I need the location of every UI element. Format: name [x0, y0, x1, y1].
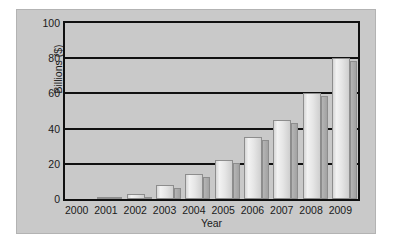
x-tick-label: 2008 [296, 204, 325, 216]
x-tick-label: 2004 [179, 204, 208, 216]
bar-face [244, 137, 262, 199]
plot-inner [65, 23, 358, 199]
bar-side-panel [115, 197, 122, 199]
bar-side-panel [145, 197, 152, 199]
bar-side-panel [262, 140, 269, 199]
bar-2000 [68, 199, 93, 200]
y-tick-label: 0 [35, 194, 60, 204]
bar-face [273, 120, 291, 199]
bar-side-panel [321, 96, 328, 199]
bar-face [215, 160, 233, 199]
bar-face [156, 185, 174, 199]
bar-face [185, 174, 203, 199]
x-tick-label: 2005 [209, 204, 238, 216]
bar-side-panel [174, 188, 181, 199]
y-axis-tick-labels: 020406080100 [35, 21, 60, 201]
y-tick-label: 100 [35, 18, 60, 28]
bar-face [97, 197, 115, 199]
x-tick-label: 2006 [238, 204, 267, 216]
bar-face [303, 93, 321, 199]
bar-2004 [185, 174, 210, 199]
bar-2005 [215, 160, 240, 199]
bar-2009 [332, 58, 357, 199]
x-tick-label: 2001 [91, 204, 120, 216]
y-tick-label: 60 [35, 88, 60, 98]
x-tick-label: 2009 [326, 204, 355, 216]
x-tick-label: 2002 [121, 204, 150, 216]
chart-page: Billions ($) 020406080100 20002001200220… [0, 0, 407, 251]
bar-side-panel [233, 163, 240, 199]
bar-side-panel [291, 123, 298, 199]
bar-face [332, 58, 350, 199]
bar-2001 [97, 197, 122, 199]
y-tick-label: 80 [35, 53, 60, 63]
bar-2006 [244, 137, 269, 199]
y-tick-label: 20 [35, 159, 60, 169]
x-tick-label: 2003 [150, 204, 179, 216]
x-tick-label: 2000 [62, 204, 91, 216]
chart-figure-panel: Billions ($) 020406080100 20002001200220… [16, 9, 376, 234]
x-axis-title: Year [63, 217, 360, 229]
bar-side-panel [203, 177, 210, 199]
bar-2003 [156, 185, 181, 199]
bar-2002 [127, 194, 152, 199]
plot-area [63, 21, 360, 201]
y-tick-label: 40 [35, 124, 60, 134]
bar-2007 [273, 120, 298, 199]
x-tick-label: 2007 [267, 204, 296, 216]
x-axis-tick-labels: 2000200120022003200420052006200720082009 [63, 204, 360, 218]
bar-face [127, 194, 145, 199]
bar-2008 [303, 93, 328, 199]
bars-layer [65, 23, 358, 199]
bar-side-panel [350, 61, 357, 199]
